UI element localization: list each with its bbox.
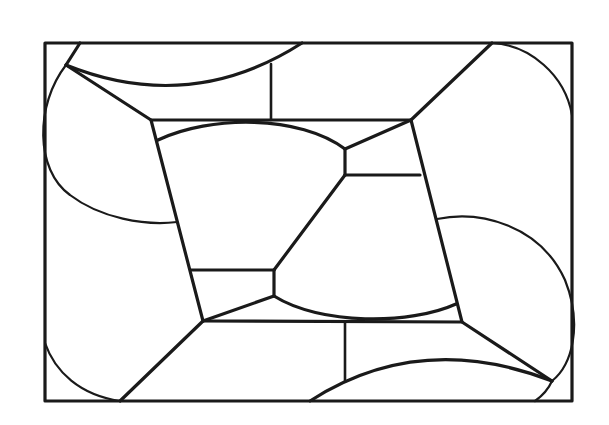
- inner-upper-arc: [158, 122, 345, 149]
- spoke-bottom-left: [120, 321, 203, 401]
- inner-lower-arc: [274, 296, 456, 319]
- bottom-right-arc: [535, 381, 552, 401]
- top-band-arc: [66, 43, 302, 85]
- top-right-arc: [492, 43, 572, 115]
- center-lower-spoke: [203, 296, 274, 321]
- center-upper-spoke: [345, 120, 411, 149]
- tiling-diagram: [0, 0, 609, 425]
- spoke-top-right: [411, 43, 492, 120]
- inner-parallelogram: [151, 120, 462, 322]
- corner-stub-top-left: [66, 43, 80, 65]
- center-diagonal: [274, 175, 345, 270]
- spoke-top-left: [66, 65, 151, 120]
- bottom-left-arc: [45, 343, 120, 401]
- spoke-bottom-right: [462, 322, 552, 381]
